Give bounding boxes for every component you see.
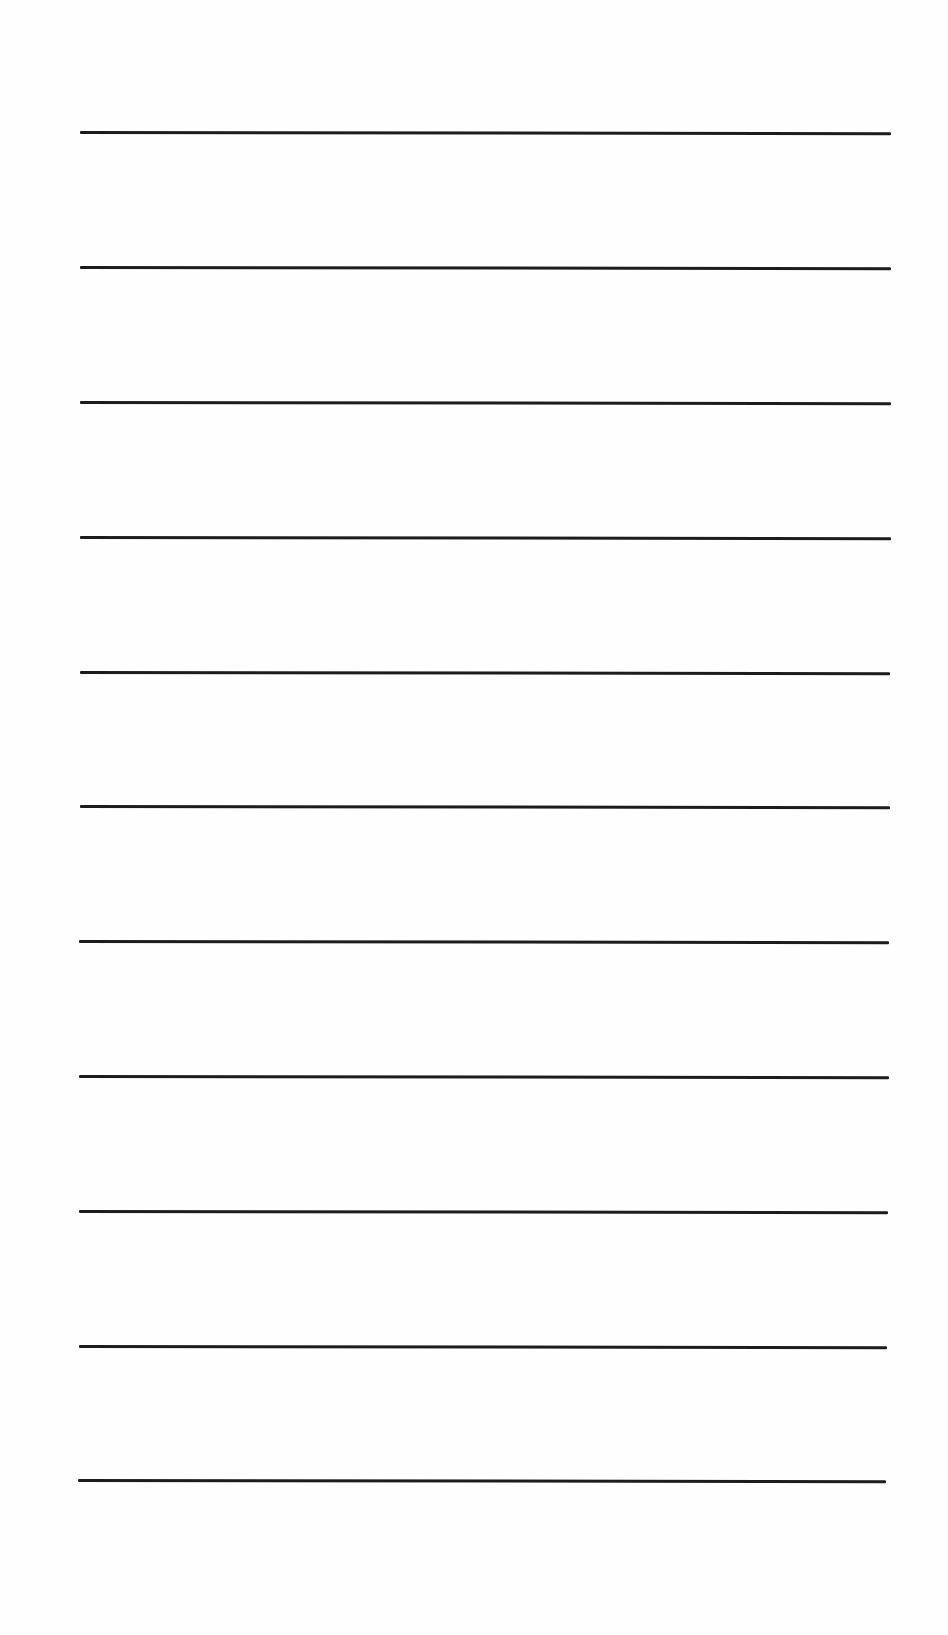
ruled-line — [79, 1075, 889, 1079]
ruled-line — [80, 536, 891, 540]
ruled-line — [80, 401, 891, 405]
ruled-line — [80, 131, 891, 135]
ruled-line — [80, 805, 890, 809]
ruled-line — [79, 1210, 888, 1214]
ruled-line — [79, 1345, 887, 1349]
ruled-line — [79, 940, 889, 944]
ruled-line — [80, 266, 891, 270]
ruled-line — [78, 1479, 886, 1483]
ruled-line — [80, 671, 890, 675]
lined-paper-sheet — [0, 0, 948, 1635]
